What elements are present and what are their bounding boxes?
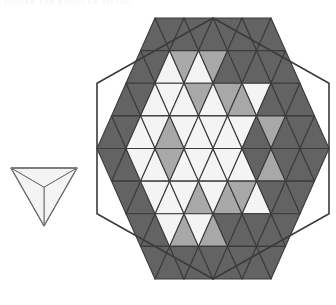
figure-canvas: FIGURE THE REGULAR TILING (0, 0, 336, 305)
hexagon-tiling (97, 18, 329, 279)
small-triangle-motif (11, 168, 77, 226)
tiling-illustration (0, 0, 336, 305)
